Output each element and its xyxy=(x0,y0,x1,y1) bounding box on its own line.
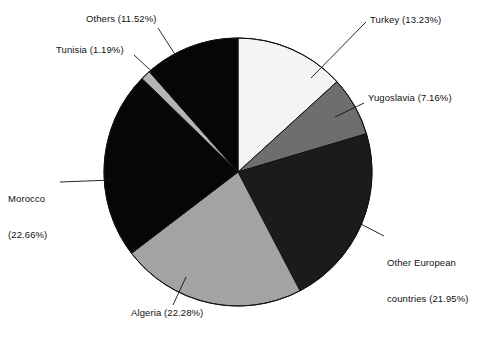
pie-label-tunisia: Tunisia (1.19%) xyxy=(56,44,124,56)
pie-label-other-european-countries-line1: Other European xyxy=(387,257,469,269)
pie-label-other-european-countries: Other European countries (21.95%) xyxy=(387,233,469,329)
pie-chart-figure: Turkey (13.23%) Yugoslavia (7.16%) Other… xyxy=(0,0,482,340)
pie-label-morocco-line2: (22.66%) xyxy=(8,229,47,241)
pie-label-turkey: Turkey (13.23%) xyxy=(370,14,441,26)
pie-label-morocco: Morocco (22.66%) xyxy=(8,169,47,265)
pie-label-other-european-countries-line2: countries (21.95%) xyxy=(387,293,469,305)
pie-label-yugoslavia: Yugoslavia (7.16%) xyxy=(368,92,452,104)
pie-slices xyxy=(104,38,372,306)
pie-label-morocco-line1: Morocco xyxy=(8,193,47,205)
leader-line-turkey xyxy=(311,22,366,78)
pie-label-others: Others (11.52%) xyxy=(86,13,157,25)
pie-label-algeria: Algeria (22.28%) xyxy=(131,307,203,319)
